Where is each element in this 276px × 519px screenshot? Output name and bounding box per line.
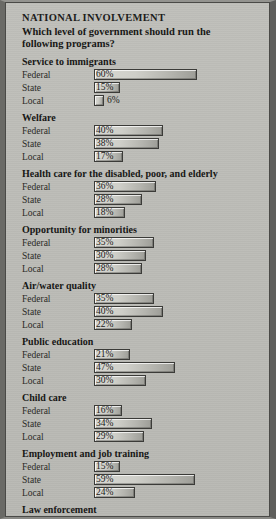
- bar-row: Federal35%: [22, 293, 258, 306]
- bar-row-label: State: [22, 362, 94, 374]
- bar-value-label: 47%: [96, 361, 113, 373]
- bar-value-label: 30%: [96, 249, 113, 261]
- page-subtitle: Which level of government should run the…: [22, 26, 222, 49]
- bar-row: Local18%: [22, 207, 258, 220]
- bar-track: 21%: [94, 349, 258, 361]
- bar-row-list: Federal15%State59%Local24%: [22, 461, 258, 500]
- bar-value-label: 18%: [96, 206, 113, 218]
- bar-row-list: Federal40%State38%Local17%: [22, 125, 258, 164]
- bar-row: Local17%: [22, 151, 258, 164]
- bar-value-label: 15%: [96, 81, 113, 93]
- bar-value-label: 17%: [96, 150, 113, 162]
- bar-group-heading: Opportunity for minorities: [22, 224, 258, 236]
- bar-row-label: Local: [22, 95, 94, 107]
- bar-row: State28%: [22, 194, 258, 207]
- bar-value-label: 22%: [96, 318, 113, 330]
- bar-row: Local24%: [22, 487, 258, 500]
- bar-row: Federal35%: [22, 237, 258, 250]
- bar-track: 40%: [94, 306, 258, 318]
- bar-row-label: State: [22, 82, 94, 94]
- bar-value-label: 29%: [96, 430, 113, 442]
- bar-group-heading: Air/water quality: [22, 280, 258, 292]
- bar-value-label: 21%: [96, 348, 113, 360]
- bar-group: Air/water qualityFederal35%State40%Local…: [22, 280, 258, 332]
- bar-row-list: Federal60%State15%Local6%: [22, 69, 258, 108]
- bar-row: Local30%: [22, 375, 258, 388]
- bar-group: Opportunity for minoritiesFederal35%Stat…: [22, 224, 258, 276]
- bar-track: 34%: [94, 418, 258, 430]
- bar-row-label: State: [22, 250, 94, 262]
- bar-row-label: Local: [22, 151, 94, 163]
- bar-row-label: State: [22, 474, 94, 486]
- bar-value-label: 35%: [96, 292, 113, 304]
- bar: [94, 95, 104, 106]
- bar-track: 18%: [94, 207, 258, 219]
- bar-row-label: State: [22, 138, 94, 150]
- bar-row-label: State: [22, 194, 94, 206]
- bar-row-list: Federal35%State30%Local28%: [22, 237, 258, 276]
- bar-track: 59%: [94, 474, 258, 486]
- bar-group: Law enforcementFederal15%State36%Local45…: [22, 504, 258, 516]
- bar-value-label: 36%: [96, 180, 113, 192]
- bar-track: 38%: [94, 138, 258, 150]
- bar-row-label: Federal: [22, 461, 94, 473]
- bar-track: 35%: [94, 293, 258, 305]
- bar-track: 30%: [94, 375, 258, 387]
- bar-group: Service to immigrantsFederal60%State15%L…: [22, 56, 258, 108]
- bar-track: 47%: [94, 362, 258, 374]
- bar-track: 24%: [94, 487, 258, 499]
- bar-group-heading: Welfare: [22, 112, 258, 124]
- bar-row-label: Federal: [22, 181, 94, 193]
- bar-row: Federal16%: [22, 405, 258, 418]
- bar-row-label: Federal: [22, 405, 94, 417]
- bar-row: Federal60%: [22, 69, 258, 82]
- bar-value-label: 28%: [96, 193, 113, 205]
- bar-track: 28%: [94, 263, 258, 275]
- bar-row-label: Federal: [22, 125, 94, 137]
- bar-value-label: 60%: [96, 68, 113, 80]
- bar-track: 60%: [94, 69, 258, 81]
- bar-value-label: 59%: [96, 473, 113, 485]
- bar-group-heading: Employment and job training: [22, 448, 258, 460]
- bar-group-heading: Child care: [22, 392, 258, 404]
- bar-value-label: 24%: [96, 486, 113, 498]
- bar-track: 36%: [94, 181, 258, 193]
- bar-row: State15%: [22, 82, 258, 95]
- bar-row: State59%: [22, 474, 258, 487]
- bar-group: WelfareFederal40%State38%Local17%: [22, 112, 258, 164]
- bar-row-label: State: [22, 418, 94, 430]
- bar-group: Employment and job trainingFederal15%Sta…: [22, 448, 258, 500]
- bar-track: 17%: [94, 151, 258, 163]
- bar-row: Federal40%: [22, 125, 258, 138]
- bar-track: 40%: [94, 125, 258, 137]
- bar-group-list: Service to immigrantsFederal60%State15%L…: [22, 56, 258, 516]
- bar-row-label: Local: [22, 319, 94, 331]
- bar-value-label: 15%: [96, 460, 113, 472]
- bar-row-list: Federal16%State34%Local29%: [22, 405, 258, 444]
- bar-row: Local6%: [22, 95, 258, 108]
- bar-row-list: Federal36%State28%Local18%: [22, 181, 258, 220]
- bar-group-heading: Health care for the disabled, poor, and …: [22, 168, 258, 180]
- chart-panel: NATIONAL INVOLVEMENT Which level of gove…: [0, 0, 276, 519]
- bar-value-label: 34%: [96, 417, 113, 429]
- bar-group-heading: Service to immigrants: [22, 56, 258, 68]
- bar-group: Health care for the disabled, poor, and …: [22, 168, 258, 220]
- bar-value-label: 40%: [96, 124, 113, 136]
- bar-track: 30%: [94, 250, 258, 262]
- bar-row: Local22%: [22, 319, 258, 332]
- bar-row-list: Federal35%State40%Local22%: [22, 293, 258, 332]
- bar-row-list: Federal21%State47%Local30%: [22, 349, 258, 388]
- bar-row-label: Local: [22, 431, 94, 443]
- bar-row-label: Federal: [22, 69, 94, 81]
- bar-row-label: State: [22, 306, 94, 318]
- bar-row: State40%: [22, 306, 258, 319]
- bar-row: Federal15%: [22, 461, 258, 474]
- chart-paper: NATIONAL INVOLVEMENT Which level of gove…: [6, 3, 269, 516]
- bar-value-label: 38%: [96, 137, 113, 149]
- bar-value-label: 28%: [96, 262, 113, 274]
- bar-value-label: 30%: [96, 374, 113, 386]
- bar-row: State38%: [22, 138, 258, 151]
- bar-row-label: Federal: [22, 293, 94, 305]
- bar-track: 15%: [94, 82, 258, 94]
- bar-track: 22%: [94, 319, 258, 331]
